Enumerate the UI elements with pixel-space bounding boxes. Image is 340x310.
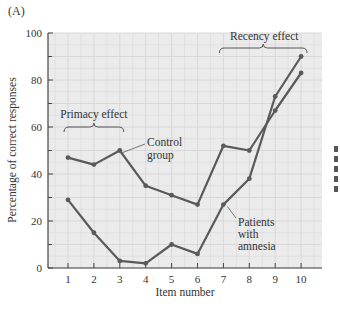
- cropped-text-fragment: [334, 156, 338, 162]
- data-point: [92, 230, 97, 235]
- x-tick-label: 4: [143, 273, 149, 285]
- data-point: [195, 202, 200, 207]
- y-tick-label: 80: [31, 74, 43, 86]
- data-point: [221, 202, 226, 207]
- cropped-text-fragment: [334, 186, 338, 192]
- data-point: [195, 252, 200, 257]
- data-point: [299, 71, 304, 76]
- data-point: [247, 148, 252, 153]
- cropped-text-fragment: [334, 146, 338, 152]
- y-tick-label: 100: [26, 27, 43, 39]
- data-point: [273, 94, 278, 99]
- y-axis-title: Percentage of correct responses: [6, 77, 19, 223]
- control-group-label: Control: [147, 136, 182, 148]
- data-point: [143, 261, 148, 266]
- x-tick-label: 7: [221, 273, 227, 285]
- control-group-label: group: [147, 149, 174, 162]
- x-axis-title: Item number: [155, 286, 214, 298]
- x-tick-label: 9: [272, 273, 278, 285]
- data-point: [66, 197, 71, 202]
- data-point: [169, 193, 174, 198]
- recency-effect-label: Recency effect: [230, 30, 299, 43]
- x-tick-label: 6: [195, 273, 201, 285]
- y-tick-label: 40: [31, 168, 43, 180]
- data-point: [273, 108, 278, 113]
- amnesia-label: Patients: [238, 216, 275, 228]
- data-point: [169, 242, 174, 247]
- data-point: [221, 143, 226, 148]
- x-tick-label: 10: [296, 273, 308, 285]
- data-point: [143, 183, 148, 188]
- data-point: [299, 54, 304, 59]
- x-tick-label: 3: [117, 273, 123, 285]
- amnesia-label: with: [238, 228, 259, 240]
- data-point: [117, 259, 122, 264]
- cropped-text-fragment: [334, 176, 338, 182]
- y-tick-label: 60: [31, 121, 43, 133]
- x-tick-label: 2: [91, 273, 97, 285]
- y-tick-label: 0: [37, 262, 43, 274]
- x-tick-label: 8: [247, 273, 253, 285]
- y-tick-label: 20: [31, 215, 43, 227]
- line-chart: 02040608010012345678910Item numberPercen…: [0, 0, 340, 310]
- amnesia-label: amnesia: [238, 240, 276, 252]
- data-point: [92, 162, 97, 167]
- data-point: [247, 176, 252, 181]
- data-point: [66, 155, 71, 160]
- x-tick-label: 1: [65, 273, 71, 285]
- cropped-text-fragment: [334, 166, 338, 172]
- data-point: [117, 148, 122, 153]
- primacy-effect-label: Primacy effect: [60, 108, 128, 121]
- x-tick-label: 5: [169, 273, 175, 285]
